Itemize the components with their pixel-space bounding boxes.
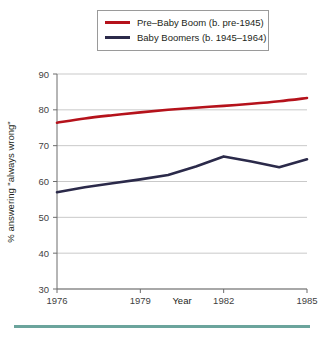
line-chart-svg: 30405060708090 1976197919821985 Year % a…: [0, 55, 324, 305]
series-line-pre-baby-boom: [57, 98, 307, 123]
y-axis-ticks: 30405060708090: [38, 69, 57, 295]
series-line-baby-boomers: [57, 156, 307, 192]
plot-area: 30405060708090 1976197919821985 Year % a…: [0, 55, 324, 305]
x-tick-label: 1979: [130, 295, 151, 305]
chart-legend: Pre–Baby Boom (b. pre-1945) Baby Boomers…: [97, 10, 269, 51]
chart-figure: Pre–Baby Boom (b. pre-1945) Baby Boomers…: [0, 0, 324, 337]
x-tick-label: 1985: [296, 295, 317, 305]
y-tick-label: 50: [38, 212, 49, 223]
y-tick-label: 70: [38, 140, 49, 151]
x-axis-title: Year: [172, 295, 191, 305]
legend-item-baby-boomers: Baby Boomers (b. 1945–1964): [105, 30, 261, 45]
y-tick-label: 80: [38, 104, 49, 115]
bottom-divider-rule: [14, 325, 310, 328]
line-swatch-red: [105, 21, 130, 24]
y-axis-title: % answering "always wrong": [5, 121, 16, 242]
legend-label-baby-boomers: Baby Boomers (b. 1945–1964): [137, 32, 266, 43]
legend-label-pre-baby-boom: Pre–Baby Boom (b. pre-1945): [137, 17, 264, 28]
gridlines: [57, 74, 307, 289]
y-tick-label: 90: [38, 69, 49, 80]
x-tick-label: 1976: [46, 295, 67, 305]
y-tick-label: 40: [38, 248, 49, 259]
y-tick-label: 60: [38, 176, 49, 187]
y-tick-label: 30: [38, 284, 49, 295]
legend-item-pre-baby-boom: Pre–Baby Boom (b. pre-1945): [105, 15, 261, 30]
x-tick-label: 1982: [213, 295, 234, 305]
line-swatch-navy: [105, 36, 130, 39]
